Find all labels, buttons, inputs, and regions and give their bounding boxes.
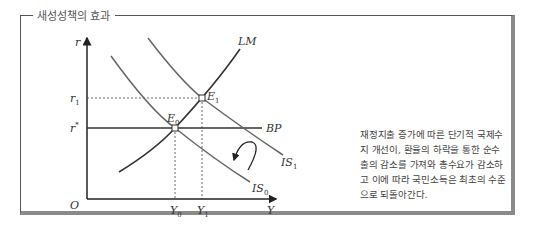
description-line: 출의 감소를 가져와 총수요가 감소하 — [360, 157, 505, 172]
description-line: 고 이에 따라 국민소득은 최초의 수준 — [360, 172, 505, 187]
e1-label: E1 — [206, 90, 220, 105]
lm-label: LM — [237, 35, 257, 48]
lm-curve — [119, 49, 240, 172]
description-line: 지 개선이, 환율의 하락을 통한 순수 — [360, 142, 505, 157]
point-e1 — [199, 95, 205, 101]
description-line: 으로 되돌아간다. — [360, 187, 505, 202]
origin-label: O — [70, 199, 79, 212]
description-line: 재정지출 증가에 따른 단기적 국제수 — [360, 127, 505, 142]
is0-label: IS0 — [251, 182, 268, 197]
bp-label: BP — [265, 122, 282, 135]
y1-label: Y1 — [197, 204, 209, 219]
description-text: 재정지출 증가에 따른 단기적 국제수 지 개선이, 환율의 하락을 통한 순수… — [360, 127, 505, 202]
curved-arrow-icon — [234, 142, 256, 170]
y-axis-label: r — [75, 36, 81, 49]
x-axis-label: Y — [267, 204, 276, 217]
is1-label: IS1 — [280, 156, 297, 171]
y0-label: Y0 — [170, 204, 182, 219]
e0-label: E0 — [166, 112, 180, 127]
r1-label: r1 — [70, 92, 80, 107]
rstar-label: r* — [70, 121, 79, 135]
